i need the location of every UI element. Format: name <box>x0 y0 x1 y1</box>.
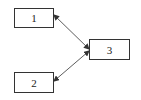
diagram-canvas: 1 2 3 <box>0 0 141 100</box>
edge-3-1 <box>54 15 89 49</box>
node-2: 2 <box>14 72 54 93</box>
node-3: 3 <box>89 39 130 60</box>
edge-3-2 <box>54 51 89 81</box>
node-3-label: 3 <box>107 44 113 56</box>
node-1-label: 1 <box>31 12 37 24</box>
node-1: 1 <box>14 8 54 28</box>
node-2-label: 2 <box>31 77 37 89</box>
